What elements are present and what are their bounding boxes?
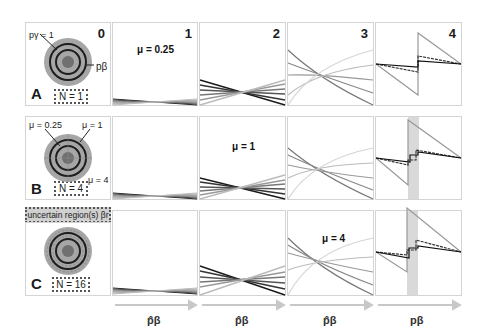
axis-label-col4: pβ bbox=[410, 314, 423, 326]
axis-label-col1: p̂β bbox=[147, 314, 160, 326]
line-plots bbox=[0, 0, 485, 333]
axis-label-col3: p̂β bbox=[323, 314, 336, 326]
axis-label-col2: p̂β bbox=[235, 314, 248, 326]
